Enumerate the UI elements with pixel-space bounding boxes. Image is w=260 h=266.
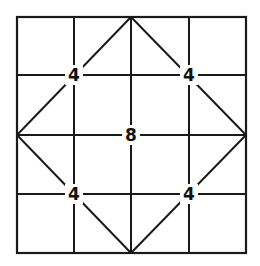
puzzle-board: 4 4 8 4 4 <box>0 0 260 266</box>
clue-top-left: 4 <box>68 65 80 85</box>
clue-top-right: 4 <box>183 65 195 85</box>
clue-bottom-left: 4 <box>68 184 80 204</box>
clue-center: 8 <box>125 125 137 145</box>
clue-bottom-right: 4 <box>183 184 195 204</box>
